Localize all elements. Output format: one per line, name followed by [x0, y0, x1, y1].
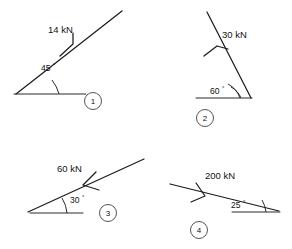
figure-1-force-label: 14 kN: [48, 24, 73, 35]
figure-2-degree-symbol: °: [222, 85, 225, 91]
figure-2-group: 30 kN 60 ° 2: [196, 12, 252, 127]
figure-4-number: 4: [197, 226, 202, 235]
figure-3-group: 60 kN 30 ° 3: [28, 159, 144, 222]
figure-4-angle-arc: [262, 200, 266, 212]
figure-3-degree-symbol: °: [82, 194, 85, 200]
figure-4-group: 200 kN 25 ° 4: [170, 170, 280, 239]
figure-4-angle-label: 25: [231, 200, 241, 210]
figure-4-force-label: 200 kN: [205, 170, 235, 181]
figure-2-arrowhead: [204, 46, 228, 56]
figure-3-force-label: 60 kN: [57, 163, 82, 174]
figure-3-angle-label: 30: [70, 195, 80, 205]
figure-1-group: 14 kN 45 ° 1: [14, 11, 122, 110]
figure-2-force-label: 30 kN: [222, 29, 247, 40]
figure-1-number: 1: [91, 97, 96, 106]
diagram-canvas: 14 kN 45 ° 1 30 kN 60 ° 2 60 kN 30: [0, 0, 292, 249]
figure-2-angle-arc-outer: [228, 84, 240, 98]
figure-2-number: 2: [203, 114, 208, 123]
figure-3-angle-arc: [62, 198, 67, 213]
figure-4-degree-symbol: °: [243, 199, 246, 205]
figure-1-angle-arc: [52, 80, 59, 94]
figure-1-angle-label: 45: [41, 63, 51, 73]
figure-1-arrowhead: [60, 33, 73, 56]
figure-4-arrowhead: [191, 183, 205, 202]
figure-3-number: 3: [106, 209, 111, 218]
figure-4-force-line: [170, 184, 279, 211]
force-diagram-sheet: 14 kN 45 ° 1 30 kN 60 ° 2 60 kN 30: [0, 0, 292, 249]
figure-2-angle-label: 60: [210, 86, 220, 96]
